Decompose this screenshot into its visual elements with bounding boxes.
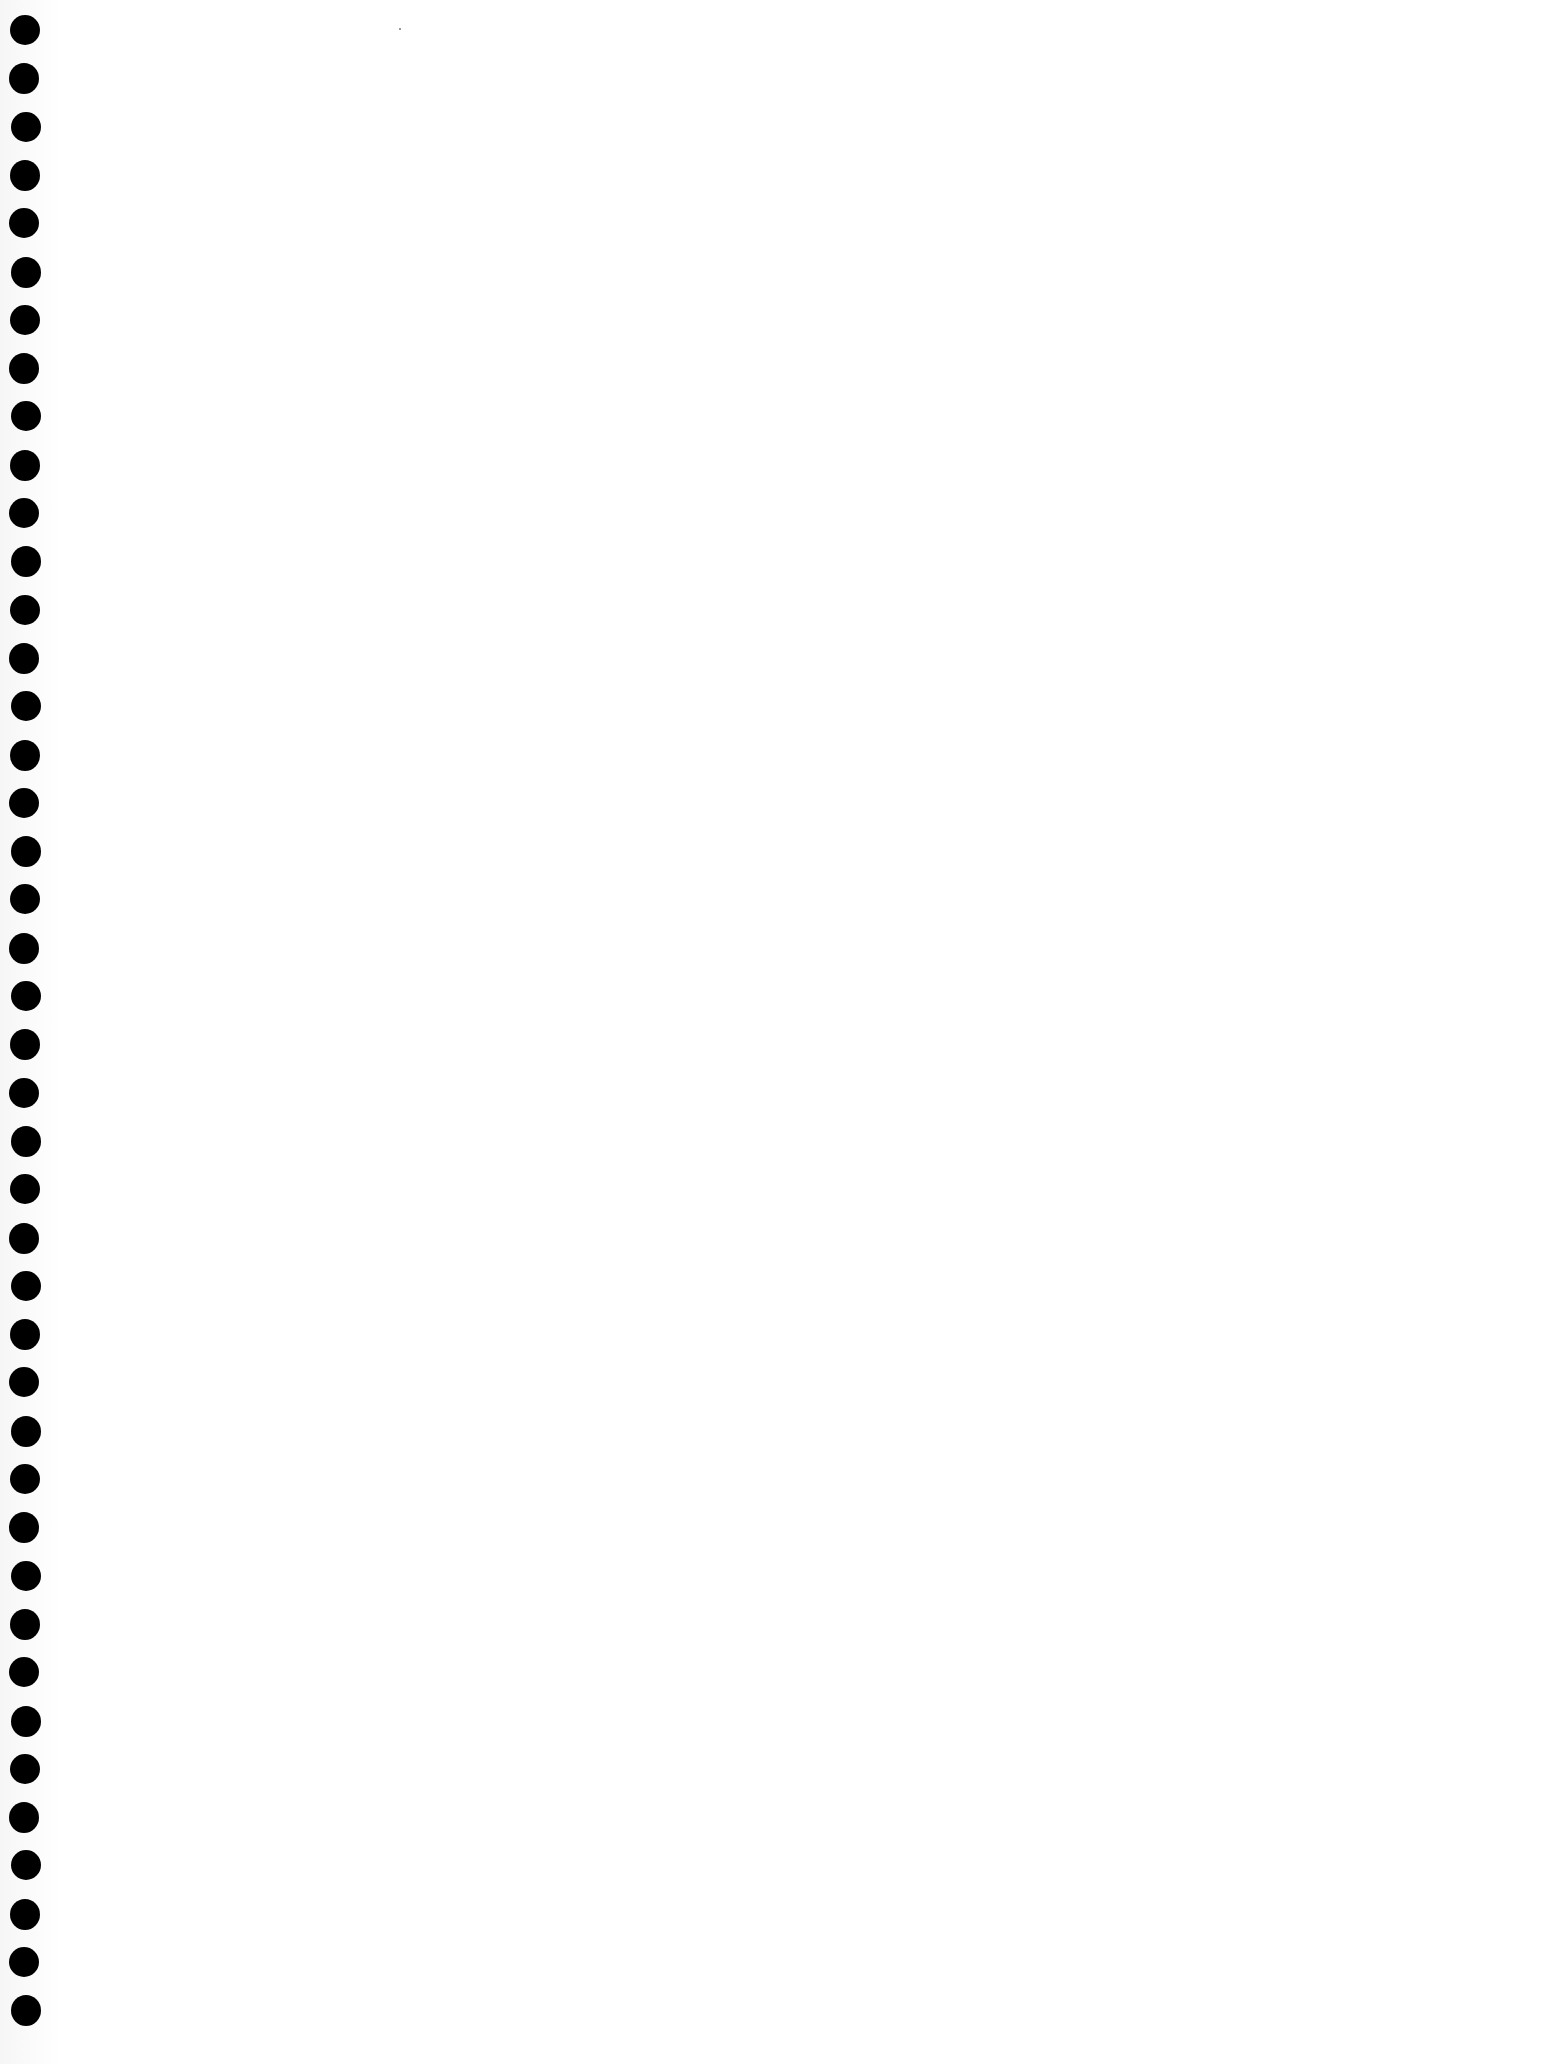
binding-hole-icon bbox=[10, 595, 40, 625]
binding-hole-icon bbox=[11, 1126, 41, 1157]
binding-hole-icon bbox=[10, 1899, 40, 1930]
binding-hole-icon bbox=[9, 1367, 39, 1397]
binding-hole-icon bbox=[11, 546, 41, 577]
binding-hole-icon bbox=[11, 1416, 41, 1447]
binding-hole-icon bbox=[9, 1947, 39, 1977]
binding-hole-icon bbox=[9, 498, 39, 528]
spiral-binding-holes bbox=[0, 0, 60, 2064]
binding-hole-icon bbox=[11, 1561, 41, 1591]
binding-hole-icon bbox=[11, 691, 41, 721]
binding-hole-icon bbox=[9, 353, 39, 384]
binding-hole-icon bbox=[11, 401, 41, 431]
binding-hole-icon bbox=[10, 1319, 40, 1350]
binding-hole-icon bbox=[9, 643, 39, 674]
binding-hole-icon bbox=[10, 1464, 40, 1494]
binding-hole-icon bbox=[9, 788, 39, 818]
binding-hole-icon bbox=[11, 1850, 41, 1880]
binding-hole-icon bbox=[9, 63, 39, 94]
binding-hole-icon bbox=[10, 1754, 40, 1784]
binding-hole-icon bbox=[9, 1802, 39, 1833]
binding-hole-icon bbox=[9, 1512, 39, 1543]
binding-hole-icon bbox=[11, 257, 41, 288]
binding-hole-icon bbox=[11, 1995, 41, 2026]
binding-hole-icon bbox=[11, 836, 41, 867]
binding-hole-icon bbox=[11, 1271, 41, 1301]
notebook-page bbox=[0, 0, 1561, 2064]
binding-hole-icon bbox=[9, 208, 39, 238]
binding-hole-icon bbox=[9, 1078, 39, 1108]
binding-hole-icon bbox=[11, 981, 41, 1011]
binding-hole-icon bbox=[10, 740, 40, 771]
binding-hole-icon bbox=[10, 160, 40, 191]
binding-hole-icon bbox=[10, 15, 40, 45]
binding-hole-icon bbox=[10, 884, 40, 914]
paper-speck bbox=[399, 28, 401, 30]
binding-hole-icon bbox=[11, 112, 41, 142]
binding-hole-icon bbox=[9, 933, 39, 964]
binding-hole-icon bbox=[11, 1706, 41, 1737]
binding-hole-icon bbox=[9, 1657, 39, 1687]
binding-hole-icon bbox=[10, 1174, 40, 1204]
binding-hole-icon bbox=[9, 1223, 39, 1254]
binding-hole-icon bbox=[10, 1609, 40, 1640]
binding-hole-icon bbox=[10, 450, 40, 481]
binding-hole-icon bbox=[10, 305, 40, 335]
binding-hole-icon bbox=[10, 1029, 40, 1060]
